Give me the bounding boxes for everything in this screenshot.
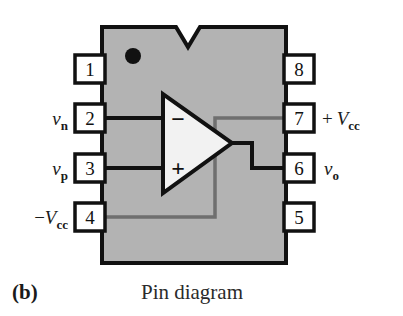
pin-number-4: 4 [85,207,95,228]
caption-text: Pin diagram [141,280,243,304]
pin1-orientation-dot [125,48,141,64]
signal-label-pin2: vn [52,108,68,133]
pin-diagram-figure: − + 1 2 3 4 8 [0,0,403,316]
pin-number-8: 8 [294,59,304,80]
pin-number-6: 6 [294,158,304,179]
signal-label-pin7: +Vcc [322,108,360,133]
pin-5[interactable]: 5 [284,203,314,231]
pin-7[interactable]: 7 [284,104,314,132]
pin-number-3: 3 [85,158,95,179]
pin-4[interactable]: 4 [75,203,105,231]
signal-label-pin4-prefix: − [34,207,45,228]
signal-label-pin4: −Vcc [34,207,68,232]
inverting-input-sign: − [171,106,185,132]
pin-1[interactable]: 1 [75,55,105,83]
signal-label-pin7-sub: cc [348,118,360,133]
noninverting-input-sign: + [171,155,185,181]
signal-label-pin3: vp [52,158,68,183]
pin-number-5: 5 [294,207,304,228]
pin-2[interactable]: 2 [75,104,105,132]
signal-label-pin2-sub: n [61,118,69,133]
signal-label-pin6: vo [324,158,339,183]
pin-8[interactable]: 8 [284,55,314,83]
pin-number-7: 7 [294,108,304,129]
pin-diagram-canvas: − + 1 2 3 4 8 [0,0,403,316]
pin-number-1: 1 [85,59,95,80]
signal-label-pin4-sub: cc [56,217,68,232]
signal-label-pin6-sub: o [332,168,339,183]
pin-number-2: 2 [85,108,95,129]
pin-3[interactable]: 3 [75,154,105,182]
caption-letter: (b) [12,280,38,304]
signal-label-pin3-sub: p [61,168,68,183]
pin-6[interactable]: 6 [284,154,314,182]
signal-label-pin7-prefix: + [322,108,333,129]
